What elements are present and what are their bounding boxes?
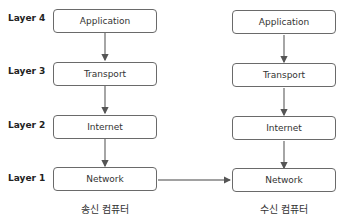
layer-3-label: Layer 3	[8, 64, 45, 78]
receiver-computer-label: 수신 컴퓨터	[231, 201, 337, 216]
layer-1-label: Layer 1	[8, 171, 45, 185]
receiver-transport-box: Transport	[232, 63, 336, 87]
sender-network-box: Network	[53, 167, 157, 191]
layer-2-label: Layer 2	[8, 118, 45, 132]
receiver-application-box: Application	[232, 10, 336, 34]
layer-4-label: Layer 4	[8, 11, 45, 25]
sender-internet-box: Internet	[53, 115, 157, 139]
receiver-internet-box: Internet	[232, 116, 336, 140]
sender-application-box: Application	[53, 9, 157, 33]
sender-transport-box: Transport	[53, 62, 157, 86]
sender-computer-label: 송신 컴퓨터	[52, 201, 158, 216]
receiver-network-box: Network	[232, 168, 336, 192]
